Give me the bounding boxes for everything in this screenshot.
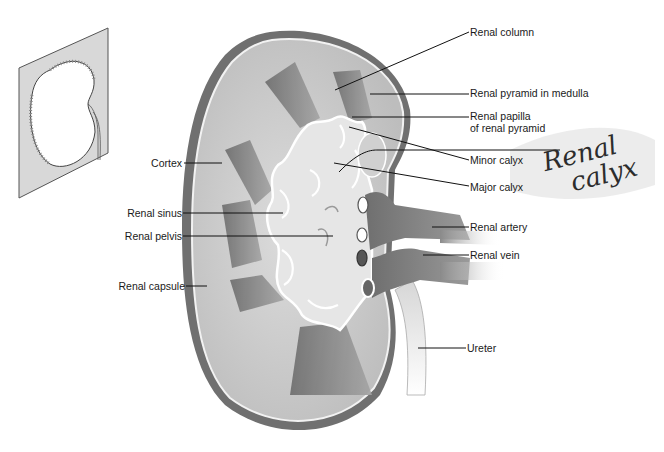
label-renal-papilla: Renal papilla: [470, 110, 531, 122]
label-renal-pyramid: Renal pyramid in medulla: [470, 87, 588, 99]
minor-calyx-region: [358, 133, 386, 177]
label-major-calyx: Major calyx: [470, 181, 523, 193]
label-renal-papilla-line2: of renal pyramid: [470, 122, 545, 134]
ureter: [395, 280, 426, 395]
kidney-illustration: [0, 0, 664, 452]
label-renal-sinus: Renal sinus: [100, 207, 182, 219]
label-renal-vein: Renal vein: [470, 249, 520, 261]
renal-vessels: [357, 192, 505, 298]
inset-sketch: [19, 28, 108, 198]
label-cortex: Cortex: [120, 157, 182, 169]
label-renal-artery: Renal artery: [470, 221, 527, 233]
label-minor-calyx: Minor calyx: [470, 154, 523, 166]
label-renal-column: Renal column: [470, 26, 534, 38]
label-renal-capsule: Renal capsule: [90, 280, 185, 292]
label-ureter: Ureter: [467, 342, 496, 354]
kidney-diagram: Cortex Renal sinus Renal pelvis Renal ca…: [0, 0, 664, 452]
label-renal-pelvis: Renal pelvis: [100, 230, 182, 242]
